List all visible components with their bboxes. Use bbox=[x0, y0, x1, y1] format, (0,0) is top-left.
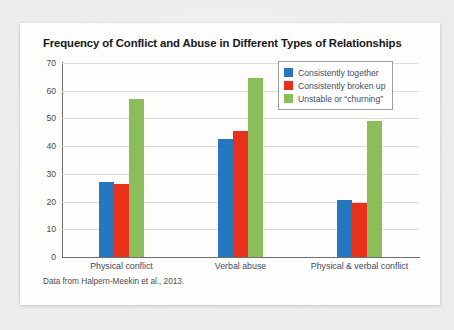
bar[interactable] bbox=[367, 121, 382, 257]
bars bbox=[99, 63, 144, 257]
bar[interactable] bbox=[337, 200, 352, 257]
bar[interactable] bbox=[129, 99, 144, 257]
y-tick-50: 50 bbox=[28, 113, 56, 123]
y-tick-0: 0 bbox=[28, 252, 56, 262]
x-tick-label: Physical & verbal conflict bbox=[300, 261, 419, 271]
x-tick-label: Physical conflict bbox=[62, 261, 181, 271]
x-axis-tick-labels: Physical conflictVerbal abusePhysical & … bbox=[62, 261, 419, 271]
bar[interactable] bbox=[352, 203, 367, 257]
bar[interactable] bbox=[218, 139, 233, 257]
y-tick-30: 30 bbox=[28, 169, 56, 179]
bar[interactable] bbox=[233, 131, 248, 257]
y-axis-tick-labels: 706050403020100 bbox=[28, 63, 56, 257]
legend-label: Consistently broken up bbox=[298, 81, 385, 91]
y-tick-40: 40 bbox=[28, 141, 56, 151]
x-tick-label: Verbal abuse bbox=[181, 261, 300, 271]
legend-label: Unstable or “churning” bbox=[298, 94, 383, 104]
y-tick-60: 60 bbox=[28, 86, 56, 96]
legend-swatch-icon bbox=[284, 94, 293, 103]
y-tick-10: 10 bbox=[28, 224, 56, 234]
bar[interactable] bbox=[248, 78, 263, 257]
legend-swatch-icon bbox=[284, 68, 293, 77]
bar[interactable] bbox=[99, 182, 114, 257]
legend-swatch-icon bbox=[284, 81, 293, 90]
y-tick-20: 20 bbox=[28, 197, 56, 207]
legend-item[interactable]: Consistently together bbox=[284, 66, 385, 79]
bar-group bbox=[62, 63, 181, 257]
legend-item[interactable]: Consistently broken up bbox=[284, 79, 385, 92]
bars bbox=[218, 63, 263, 257]
chart-card: Frequency of Conflict and Abuse in Diffe… bbox=[20, 23, 440, 305]
bar[interactable] bbox=[114, 184, 129, 257]
legend-label: Consistently together bbox=[298, 68, 379, 78]
legend-item[interactable]: Unstable or “churning” bbox=[284, 92, 385, 105]
figure-page: Frequency of Conflict and Abuse in Diffe… bbox=[0, 0, 454, 330]
chart-title: Frequency of Conflict and Abuse in Diffe… bbox=[43, 37, 433, 49]
chart-legend: Consistently togetherConsistently broken… bbox=[278, 61, 393, 110]
source-note: Data from Halpern-Meekin et al., 2013. bbox=[43, 277, 184, 286]
y-tick-70: 70 bbox=[28, 58, 56, 68]
x-axis-line bbox=[62, 257, 420, 258]
